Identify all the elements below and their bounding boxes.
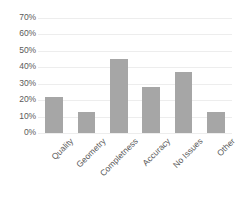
bar-slot: [38, 18, 70, 133]
y-axis-tick-label: 40%: [4, 62, 36, 71]
y-axis-tick-label: 50%: [4, 46, 36, 55]
bars-layer: [38, 18, 232, 133]
bar-no-issues[interactable]: [175, 72, 193, 133]
x-axis-tick-label: Quality: [47, 136, 75, 164]
y-axis-tick-label: 30%: [4, 79, 36, 88]
y-axis-tick-label: 10%: [4, 112, 36, 121]
bar-chart: 0%10%20%30%40%50%60%70% QualityGeometryC…: [0, 0, 236, 198]
y-axis-tick-label: 0%: [4, 128, 36, 137]
bar-geometry[interactable]: [78, 112, 96, 133]
y-axis-tick-label: 60%: [4, 29, 36, 38]
gridline: [38, 133, 232, 134]
x-axis: QualityGeometryCompletnessAccuracyNo Iss…: [38, 136, 232, 196]
bar-completness[interactable]: [110, 59, 128, 133]
bar-slot: [103, 18, 135, 133]
y-axis: 0%10%20%30%40%50%60%70%: [0, 0, 36, 198]
y-axis-tick-label: 70%: [4, 13, 36, 22]
bar-accuracy[interactable]: [142, 87, 160, 133]
bar-slot: [135, 18, 167, 133]
bar-slot: [70, 18, 102, 133]
bar-quality[interactable]: [45, 97, 63, 133]
bar-slot: [200, 18, 232, 133]
bar-other[interactable]: [207, 112, 225, 133]
bar-slot: [167, 18, 199, 133]
y-axis-tick-label: 20%: [4, 95, 36, 104]
